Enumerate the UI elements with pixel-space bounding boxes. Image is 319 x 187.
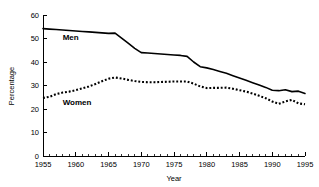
x-axis-tick-label: 1975 [166,160,183,169]
y-axis-tick-label: 30 [31,81,39,90]
y-axis-tick-label: 10 [31,128,39,137]
x-axis-title: Year [166,174,182,183]
x-axis-tick-labels: 195519601965197019751980198519901995 [35,160,314,169]
series-inline-labels: MenWomen [63,33,92,108]
x-axis-tick-label: 1960 [67,160,84,169]
series-label-men: Men [63,33,79,42]
x-axis-tick-label: 1990 [264,160,281,169]
line-chart: 0102030405060 19551960196519701975198019… [0,0,319,187]
series-label-women: Women [63,98,92,107]
axis-major-ticks [43,15,305,156]
x-axis-tick-label: 1995 [297,160,314,169]
x-axis-tick-label: 1985 [231,160,248,169]
x-axis-tick-label: 1980 [198,160,215,169]
x-axis-tick-label: 1970 [133,160,150,169]
y-axis-tick-labels: 0102030405060 [31,11,39,161]
x-axis-tick-label: 1965 [100,160,117,169]
y-axis-tick-label: 60 [31,11,39,20]
data-series-group [43,29,305,105]
y-axis-title: Percentage [7,67,16,105]
series-line-men [43,29,305,94]
y-axis-tick-label: 20 [31,105,39,114]
x-axis-tick-label: 1955 [35,160,52,169]
y-axis-tick-label: 50 [31,34,39,43]
y-axis-tick-label: 40 [31,58,39,67]
chart-container: 0102030405060 19551960196519701975198019… [0,0,319,187]
